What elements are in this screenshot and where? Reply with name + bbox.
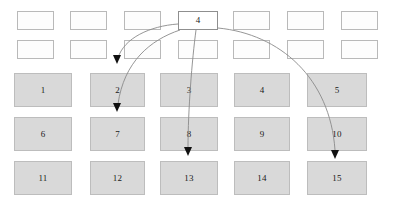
grid-cell-label: 15 xyxy=(332,174,341,183)
grid-cell-8[interactable]: 8 xyxy=(160,117,218,151)
grid-cell-label: 7 xyxy=(115,130,120,139)
grid-cell-12[interactable]: 12 xyxy=(90,161,145,195)
grid-cell-14[interactable]: 14 xyxy=(234,161,290,195)
grid-cell-label: 6 xyxy=(41,130,46,139)
empty-slot-5[interactable] xyxy=(233,11,270,30)
edge-4-to-15-arrowhead xyxy=(331,150,339,159)
grid-cell-label: 3 xyxy=(187,86,192,95)
empty-slot-2[interactable] xyxy=(70,40,107,59)
grid-cell-7[interactable]: 7 xyxy=(90,117,145,151)
grid-cell-label: 13 xyxy=(184,174,193,183)
grid-cell-label: 10 xyxy=(332,130,341,139)
empty-slot-3[interactable] xyxy=(124,11,161,30)
empty-slot-6[interactable] xyxy=(287,11,324,30)
edge-4-to-2-arrowhead xyxy=(113,55,121,64)
grid-cell-10[interactable]: 10 xyxy=(307,117,367,151)
grid-cell-5[interactable]: 5 xyxy=(307,73,367,107)
grid-cell-label: 8 xyxy=(187,130,192,139)
grid-cell-13[interactable]: 13 xyxy=(160,161,218,195)
grid-cell-2[interactable]: 2 xyxy=(90,73,145,107)
grid-cell-11[interactable]: 11 xyxy=(14,161,72,195)
empty-slot-5[interactable] xyxy=(233,40,270,59)
empty-slot-7[interactable] xyxy=(341,11,378,30)
empty-slot-2[interactable] xyxy=(70,11,107,30)
empty-slot-4[interactable] xyxy=(178,40,218,59)
grid-cell-label: 9 xyxy=(260,130,265,139)
grid-cell-15[interactable]: 15 xyxy=(307,161,367,195)
empty-slot-3[interactable] xyxy=(124,40,161,59)
source-node-label: 4 xyxy=(196,16,201,25)
empty-slot-7[interactable] xyxy=(341,40,378,59)
grid-cell-label: 1 xyxy=(41,86,46,95)
grid-cell-label: 12 xyxy=(113,174,122,183)
grid-cell-label: 14 xyxy=(257,174,266,183)
schedule-grid-diagram: 4 123456789101112131415 xyxy=(0,0,396,220)
grid-cell-label: 4 xyxy=(260,86,265,95)
empty-slot-6[interactable] xyxy=(287,40,324,59)
empty-slot-1[interactable] xyxy=(17,40,54,59)
grid-cell-label: 11 xyxy=(38,174,47,183)
grid-cell-3[interactable]: 3 xyxy=(160,73,218,107)
grid-cell-9[interactable]: 9 xyxy=(234,117,290,151)
source-node-4[interactable]: 4 xyxy=(178,11,218,30)
grid-cell-4[interactable]: 4 xyxy=(234,73,290,107)
empty-slot-1[interactable] xyxy=(17,11,54,30)
grid-cell-1[interactable]: 1 xyxy=(14,73,72,107)
grid-cell-label: 5 xyxy=(335,86,340,95)
grid-cell-6[interactable]: 6 xyxy=(14,117,72,151)
grid-cell-label: 2 xyxy=(115,86,120,95)
